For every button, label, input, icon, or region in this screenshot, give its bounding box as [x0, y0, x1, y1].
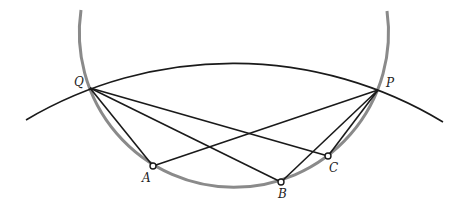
segment-PA	[153, 90, 378, 166]
label-Q: Q	[74, 75, 84, 89]
label-A: A	[141, 171, 151, 185]
label-P: P	[385, 76, 395, 90]
segment-QA	[90, 88, 153, 166]
label-C: C	[329, 161, 338, 175]
label-B: B	[277, 187, 287, 201]
point-C-marker	[325, 153, 331, 159]
geometry-diagram: Q P A B C	[0, 0, 467, 209]
point-B-marker	[278, 179, 284, 185]
segment-PC	[328, 90, 378, 156]
black-outer-arc	[26, 63, 443, 122]
point-A-marker	[150, 163, 156, 169]
